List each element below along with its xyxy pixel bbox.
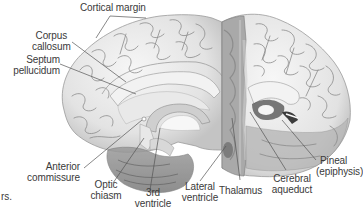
label-cortical-margin: Cortical margin — [80, 2, 146, 13]
label-text: pellucidum — [2, 65, 60, 76]
label-third-ventricle: 3rd ventricle — [128, 187, 178, 209]
label-text: Cerebral — [268, 173, 316, 184]
label-text: Anterior — [26, 161, 80, 172]
label-anterior-commissure: Anterior commissure — [26, 161, 80, 183]
label-text: (epiphysis) — [316, 166, 363, 177]
label-text: ventricle — [128, 198, 178, 209]
label-text: Thalamus — [219, 185, 262, 196]
label-optic-chiasm: Optic chiasm — [86, 179, 126, 201]
label-text: Cortical margin — [80, 2, 146, 13]
label-text: chiasm — [86, 190, 126, 201]
label-text: commissure — [26, 172, 80, 183]
label-text: Corpus — [32, 30, 71, 41]
label-text: 3rd — [128, 187, 178, 198]
label-corpus-callosum: Corpus callosum — [32, 30, 71, 52]
label-septum-pellucidum: Septum pellucidum — [2, 54, 60, 76]
label-text: Septum — [2, 54, 60, 65]
right-hemisphere — [222, 14, 350, 176]
label-text: callosum — [32, 41, 71, 52]
left-edge-text-fragment: rs. — [1, 191, 12, 202]
label-text: aqueduct — [268, 184, 316, 195]
label-text: rs. — [1, 191, 12, 202]
label-lateral-ventricle: Lateral ventricle — [176, 181, 224, 203]
label-thalamus: Thalamus — [219, 185, 262, 196]
brain-figure: Cortical margin Corpus callosum Septum p… — [0, 0, 363, 209]
label-text: ventricle — [176, 192, 224, 203]
label-text: Optic — [86, 179, 126, 190]
label-text: Lateral — [176, 181, 224, 192]
label-cerebral-aqueduct: Cerebral aqueduct — [268, 173, 316, 195]
label-pineal: Pineal (epiphysis) — [316, 155, 363, 177]
label-text: Pineal — [316, 155, 363, 166]
